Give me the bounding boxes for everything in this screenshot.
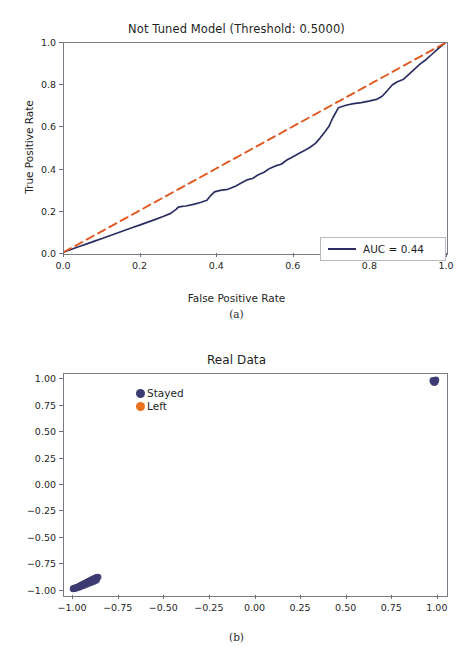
legend-a-auc: AUC = 0.44 xyxy=(320,237,446,261)
y-tick-mark xyxy=(59,253,63,254)
y-tick-mark xyxy=(59,169,63,170)
series-chance xyxy=(64,43,445,252)
x-tick-mark xyxy=(216,253,217,257)
y-tick-label: 1.00 xyxy=(15,373,56,384)
x-tick-mark xyxy=(209,595,210,599)
x-tick-mark xyxy=(346,595,347,599)
x-tick-label: 0.4 xyxy=(209,260,224,271)
y-tick-mark xyxy=(59,484,63,485)
y-tick-mark xyxy=(59,458,63,459)
figure-b-real-data-scatter: Real Data Stayed Left −1.00−0.75−0.50−0.… xyxy=(0,331,473,662)
x-tick-mark xyxy=(391,595,392,599)
y-tick-mark xyxy=(59,211,63,212)
x-tick-label: 1.00 xyxy=(426,602,447,613)
y-tick-mark xyxy=(59,378,63,379)
y-tick-mark xyxy=(59,537,63,538)
y-tick-label: 0.2 xyxy=(23,205,56,216)
y-tick-label: 0.25 xyxy=(15,452,56,463)
legend-b-classes: Stayed Left xyxy=(136,387,184,412)
x-tick-label: 0.8 xyxy=(362,260,377,271)
legend-dot-left xyxy=(136,402,145,411)
x-tick-mark xyxy=(163,595,164,599)
x-tick-label: 0.0 xyxy=(55,260,70,271)
x-tick-label: 0.00 xyxy=(244,602,265,613)
y-tick-label: 0.50 xyxy=(15,426,56,437)
x-axis-title-a: False Positive Rate xyxy=(0,292,473,304)
subfigure-caption-b: (b) xyxy=(0,631,473,643)
y-tick-mark xyxy=(59,431,63,432)
figure-a-roc-curve: Not Tuned Model (Threshold: 0.5000) 0.00… xyxy=(0,0,473,331)
x-tick-label: 1.0 xyxy=(438,260,453,271)
x-tick-mark xyxy=(300,595,301,599)
chart-title-b: Real Data xyxy=(0,353,473,367)
x-tick-label: 0.25 xyxy=(290,602,311,613)
legend-label-left: Left xyxy=(147,400,167,412)
scatter-point-stayed xyxy=(429,377,436,384)
plot-area-a xyxy=(63,42,448,255)
y-tick-label: 0.75 xyxy=(15,399,56,410)
y-tick-label: 0.00 xyxy=(15,479,56,490)
legend-label-stayed: Stayed xyxy=(147,387,184,399)
y-tick-mark xyxy=(59,563,63,564)
y-tick-mark xyxy=(59,126,63,127)
x-tick-mark xyxy=(293,253,294,257)
legend-line-swatch xyxy=(328,248,356,250)
scatter-point-stayed xyxy=(71,585,78,592)
chart-title-a: Not Tuned Model (Threshold: 0.5000) xyxy=(0,22,473,36)
roc-curve-svg xyxy=(64,43,447,254)
x-tick-label: 0.75 xyxy=(381,602,402,613)
legend-item-stayed: Stayed xyxy=(136,387,184,399)
x-tick-mark xyxy=(255,595,256,599)
scatter-points-svg xyxy=(64,374,447,596)
x-tick-mark xyxy=(140,253,141,257)
x-tick-label: −1.00 xyxy=(58,602,87,613)
y-tick-mark xyxy=(59,405,63,406)
y-tick-mark xyxy=(59,590,63,591)
x-tick-label: −0.25 xyxy=(194,602,223,613)
y-tick-mark xyxy=(59,510,63,511)
y-tick-label: −0.75 xyxy=(15,558,56,569)
x-tick-label: 0.50 xyxy=(335,602,356,613)
y-tick-label: −0.50 xyxy=(15,531,56,542)
subfigure-caption-a: (a) xyxy=(0,308,473,320)
y-axis-title-a: True Positive Rate xyxy=(23,92,35,202)
x-tick-label: 0.6 xyxy=(285,260,300,271)
y-tick-label: 1.0 xyxy=(23,37,56,48)
x-tick-mark xyxy=(446,253,447,257)
y-tick-label: −1.00 xyxy=(15,584,56,595)
scatter-point-stayed xyxy=(93,577,100,584)
plot-area-b: Stayed Left xyxy=(63,373,448,597)
x-tick-label: −0.75 xyxy=(103,602,132,613)
x-tick-label: −0.50 xyxy=(149,602,178,613)
legend-label-auc: AUC = 0.44 xyxy=(363,243,424,255)
x-tick-mark xyxy=(72,595,73,599)
legend-item-left: Left xyxy=(136,400,184,412)
x-tick-label: 0.2 xyxy=(132,260,147,271)
legend-dot-stayed xyxy=(136,389,145,398)
y-tick-mark xyxy=(59,84,63,85)
y-tick-label: 0.0 xyxy=(23,248,56,259)
x-tick-mark xyxy=(118,595,119,599)
x-tick-mark xyxy=(437,595,438,599)
y-tick-label: 0.8 xyxy=(23,79,56,90)
x-tick-mark xyxy=(63,253,64,257)
y-tick-mark xyxy=(59,42,63,43)
y-tick-label: −0.25 xyxy=(15,505,56,516)
